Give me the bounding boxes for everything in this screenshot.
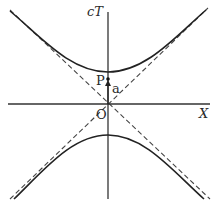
origin-label: O (96, 107, 107, 122)
point-p-label: P (96, 73, 105, 88)
ct-axis-label: cT (87, 4, 104, 19)
spacetime-diagram: cT X O P a (0, 0, 221, 218)
x-axis-label: X (198, 106, 209, 121)
vector-a-arrowhead (105, 80, 111, 86)
event-point-p (106, 77, 110, 81)
vector-a-label: a (112, 81, 120, 96)
